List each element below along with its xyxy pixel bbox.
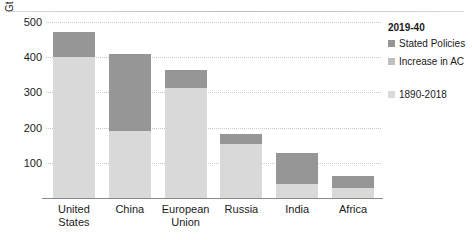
chart-legend: 2019-40 Stated PoliciesIncrease in AC189… <box>388 22 472 107</box>
bar-segment <box>332 188 374 198</box>
gridline <box>46 22 381 23</box>
legend-item[interactable]: 1890-2018 <box>388 89 472 100</box>
bar-chart: Gt 500400300200100 UnitedStatesChinaEuro… <box>0 0 472 240</box>
bar-segment <box>220 144 262 198</box>
bar[interactable] <box>53 32 95 198</box>
y-axis-ticks: 500400300200100 <box>0 0 42 240</box>
y-axis-tick-label: 400 <box>2 51 42 63</box>
bar-segment <box>109 131 151 198</box>
bar-segment <box>276 184 318 198</box>
gridline <box>46 57 381 58</box>
bar[interactable] <box>332 176 374 198</box>
bar-segment <box>165 70 207 88</box>
bar-segment <box>276 153 318 184</box>
legend-swatch-icon <box>388 58 395 65</box>
bar-segment <box>53 32 95 57</box>
y-axis-tick-label: 500 <box>2 16 42 28</box>
gridline <box>46 128 381 129</box>
bar-segment <box>332 176 374 188</box>
bar[interactable] <box>109 54 151 198</box>
x-axis-category-line2: Union <box>150 216 222 229</box>
bar-segment <box>53 57 95 198</box>
bar-segment <box>220 134 262 144</box>
legend-item-label: 1890-2018 <box>399 89 447 100</box>
legend-swatch-icon <box>388 91 395 98</box>
bar-segment <box>165 88 207 198</box>
x-axis-line <box>42 198 383 199</box>
legend-swatch-icon <box>388 40 395 47</box>
bar[interactable] <box>220 134 262 198</box>
legend-item-label: Stated Policies <box>399 38 465 49</box>
x-axis-labels: UnitedStatesChinaEuropeanUnionRussiaIndi… <box>46 203 381 239</box>
legend-item-label: Increase in AC <box>399 56 464 67</box>
gridline <box>46 92 381 93</box>
y-axis-tick-label: 100 <box>2 157 42 169</box>
x-axis-category-label: Africa <box>317 203 389 216</box>
plot-area <box>46 22 381 198</box>
legend-item[interactable]: Increase in AC <box>388 56 472 67</box>
y-axis-tick-label: 200 <box>2 122 42 134</box>
y-axis-tick-label: 300 <box>2 86 42 98</box>
bar-segment <box>109 54 151 131</box>
bar[interactable] <box>165 70 207 198</box>
legend-item[interactable]: Stated Policies <box>388 38 472 49</box>
x-axis-category-line1: Africa <box>317 203 389 216</box>
bar[interactable] <box>276 153 318 198</box>
gridline <box>46 163 381 164</box>
legend-title: 2019-40 <box>388 22 472 33</box>
x-axis-category-line2: States <box>38 216 110 229</box>
